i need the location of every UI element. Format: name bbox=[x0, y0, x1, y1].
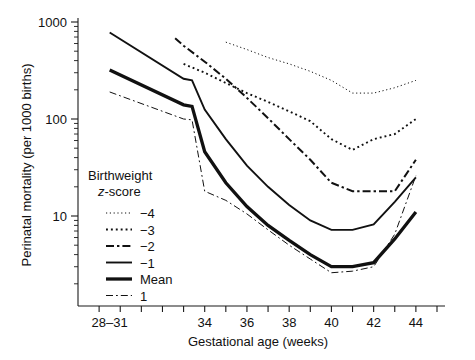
series-line bbox=[110, 32, 416, 229]
x-axis-title: Gestational age (weeks) bbox=[188, 334, 328, 349]
legend: Birthweight z-score −4−3−2−1Mean1 bbox=[88, 168, 173, 304]
x-tick-label: 40 bbox=[324, 315, 338, 330]
x-tick-label: 28–31 bbox=[92, 315, 128, 330]
series-line bbox=[110, 70, 416, 267]
perinatal-mortality-chart: 100010010 28–31343638404244 Perinatal mo… bbox=[0, 0, 475, 360]
legend-label: −1 bbox=[140, 256, 155, 271]
legend-label: 1 bbox=[140, 289, 147, 304]
x-tick-label: 38 bbox=[282, 315, 296, 330]
legend-label: Mean bbox=[140, 272, 173, 287]
legend-title-score: -score bbox=[105, 184, 141, 199]
x-axis-ticks bbox=[99, 306, 437, 312]
y-axis-ticks bbox=[71, 22, 78, 284]
axes bbox=[78, 18, 445, 306]
x-tick-label: 42 bbox=[366, 315, 380, 330]
y-tick-label: 1000 bbox=[38, 15, 67, 30]
legend-entries: −4−3−2−1Mean1 bbox=[106, 206, 173, 304]
data-series-group bbox=[110, 32, 416, 272]
legend-label: −3 bbox=[140, 223, 155, 238]
x-tick-label: 34 bbox=[197, 315, 211, 330]
legend-title-line2: z-score bbox=[97, 184, 141, 199]
series-line bbox=[226, 42, 416, 93]
y-axis-title: Perinatal mortality (per 1000 births) bbox=[19, 63, 34, 266]
legend-label: −2 bbox=[140, 239, 155, 254]
y-axis-tick-labels: 100010010 bbox=[38, 15, 67, 224]
x-tick-label: 36 bbox=[240, 315, 254, 330]
series-line bbox=[184, 64, 416, 150]
legend-title-line1: Birthweight bbox=[88, 168, 153, 183]
y-tick-label: 10 bbox=[53, 209, 67, 224]
legend-label: −4 bbox=[140, 206, 155, 221]
y-tick-label: 100 bbox=[45, 112, 67, 127]
x-axis-tick-labels: 28–31343638404244 bbox=[92, 315, 424, 330]
chart-figure: 100010010 28–31343638404244 Perinatal mo… bbox=[0, 0, 475, 360]
x-tick-label: 44 bbox=[409, 315, 423, 330]
